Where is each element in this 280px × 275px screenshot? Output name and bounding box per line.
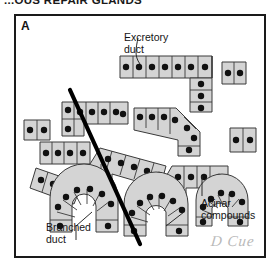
figure-root: ...OUS REPAIR GLANDS A <box>0 0 280 275</box>
label-excretory-duct-line1: Excretory <box>124 31 168 43</box>
label-branched-duct: Branched duct <box>46 222 91 245</box>
label-acinar-line1: Acinar <box>201 197 231 209</box>
figure-title: ...OUS REPAIR GLANDS <box>4 0 142 6</box>
figure-panel: A <box>14 14 266 258</box>
label-excretory-duct: Excretory duct <box>124 32 168 55</box>
label-acinar-line2: compounds <box>201 209 255 221</box>
artist-signature: D Cue <box>210 233 256 250</box>
label-excretory-duct-line2: duct <box>124 43 144 55</box>
label-branched-line2: duct <box>46 233 66 245</box>
label-branched-line1: Branched <box>46 221 91 233</box>
label-acinar-compounds: Acinar compounds <box>201 198 255 221</box>
